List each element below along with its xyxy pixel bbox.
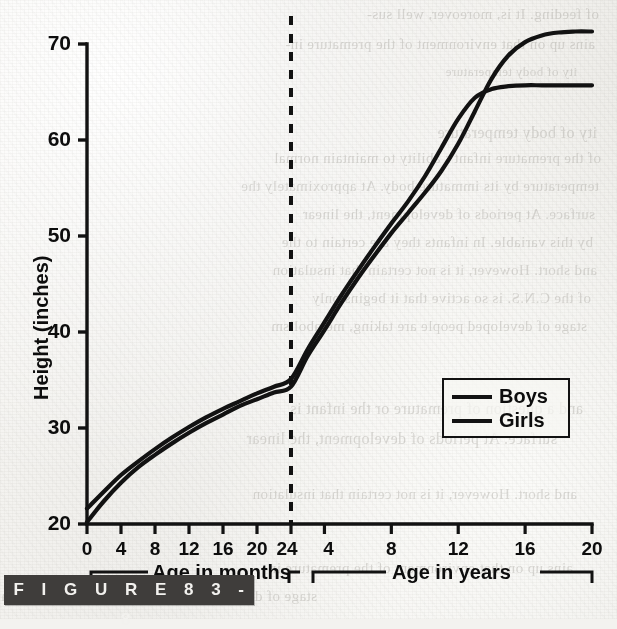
x-tick-label: 12: [438, 538, 478, 560]
legend-label-girls: Girls: [499, 409, 545, 432]
legend-item-boys: Boys: [452, 385, 548, 408]
y-tick-label: 50: [25, 223, 71, 247]
axes: [78, 44, 592, 534]
y-tick-label: 30: [25, 415, 71, 439]
figure-caption-bar: F I G U R E 8 3 - 8: [4, 575, 254, 605]
y-tick-label: 60: [25, 127, 71, 151]
figure-caption-label: F I G U R E 8 3 - 8: [4, 575, 254, 629]
x-tick-label: 8: [371, 538, 411, 560]
growth-curves: [87, 31, 592, 522]
y-tick-label: 70: [25, 31, 71, 55]
x-axis-group-label-years: Age in years: [392, 561, 511, 584]
x-tick-label: 24: [267, 538, 307, 560]
x-tick-label: 20: [572, 538, 612, 560]
legend-swatch-line-icon: [452, 395, 492, 399]
y-tick-label: 20: [25, 511, 71, 535]
chart-legend: Boys Girls: [442, 378, 570, 438]
legend-item-girls: Girls: [452, 409, 545, 432]
legend-swatch-line-icon: [452, 419, 492, 423]
curve-boys: [87, 31, 592, 522]
y-tick-label: 40: [25, 319, 71, 343]
x-tick-label: 16: [505, 538, 545, 560]
curve-girls: [87, 85, 592, 508]
legend-label-boys: Boys: [499, 385, 548, 408]
x-tick-label: 4: [308, 538, 348, 560]
